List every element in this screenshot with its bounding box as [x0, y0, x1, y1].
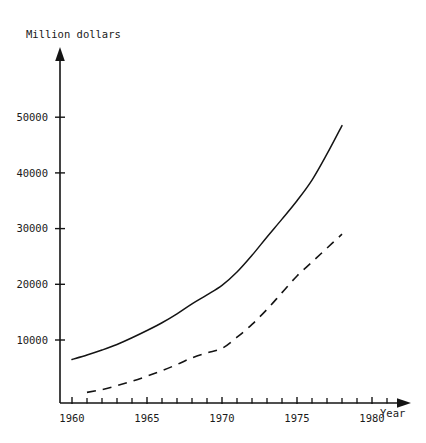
y-tick-label: 10000: [16, 334, 48, 346]
x-tick-label: 1965: [134, 412, 159, 424]
x-tick-label: 1980: [359, 412, 384, 424]
y-axis-ticks: 1000020000300004000050000: [16, 111, 65, 346]
chart-canvas: Million dollars Year 1000020000300004000…: [0, 0, 426, 443]
y-axis-title: Million dollars: [26, 28, 121, 40]
y-axis-arrow-icon: [55, 47, 65, 61]
series-line-solid: [72, 126, 342, 360]
y-tick-label: 40000: [16, 167, 48, 179]
series-line-dashed: [87, 234, 342, 392]
x-axis-tick-labels: 19601965197019751980: [59, 412, 384, 424]
chart-figure: Million dollars Year 1000020000300004000…: [0, 0, 426, 443]
y-tick-label: 50000: [16, 111, 48, 123]
y-tick-label: 20000: [16, 278, 48, 290]
x-tick-label: 1975: [284, 412, 309, 424]
y-tick-label: 30000: [16, 222, 48, 234]
x-tick-label: 1960: [59, 412, 84, 424]
x-tick-label: 1970: [209, 412, 234, 424]
